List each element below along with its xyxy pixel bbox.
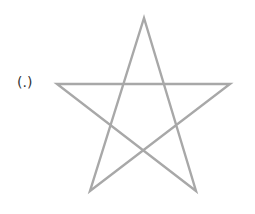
pentagram-star-icon xyxy=(0,0,255,214)
star-outline xyxy=(57,18,230,191)
